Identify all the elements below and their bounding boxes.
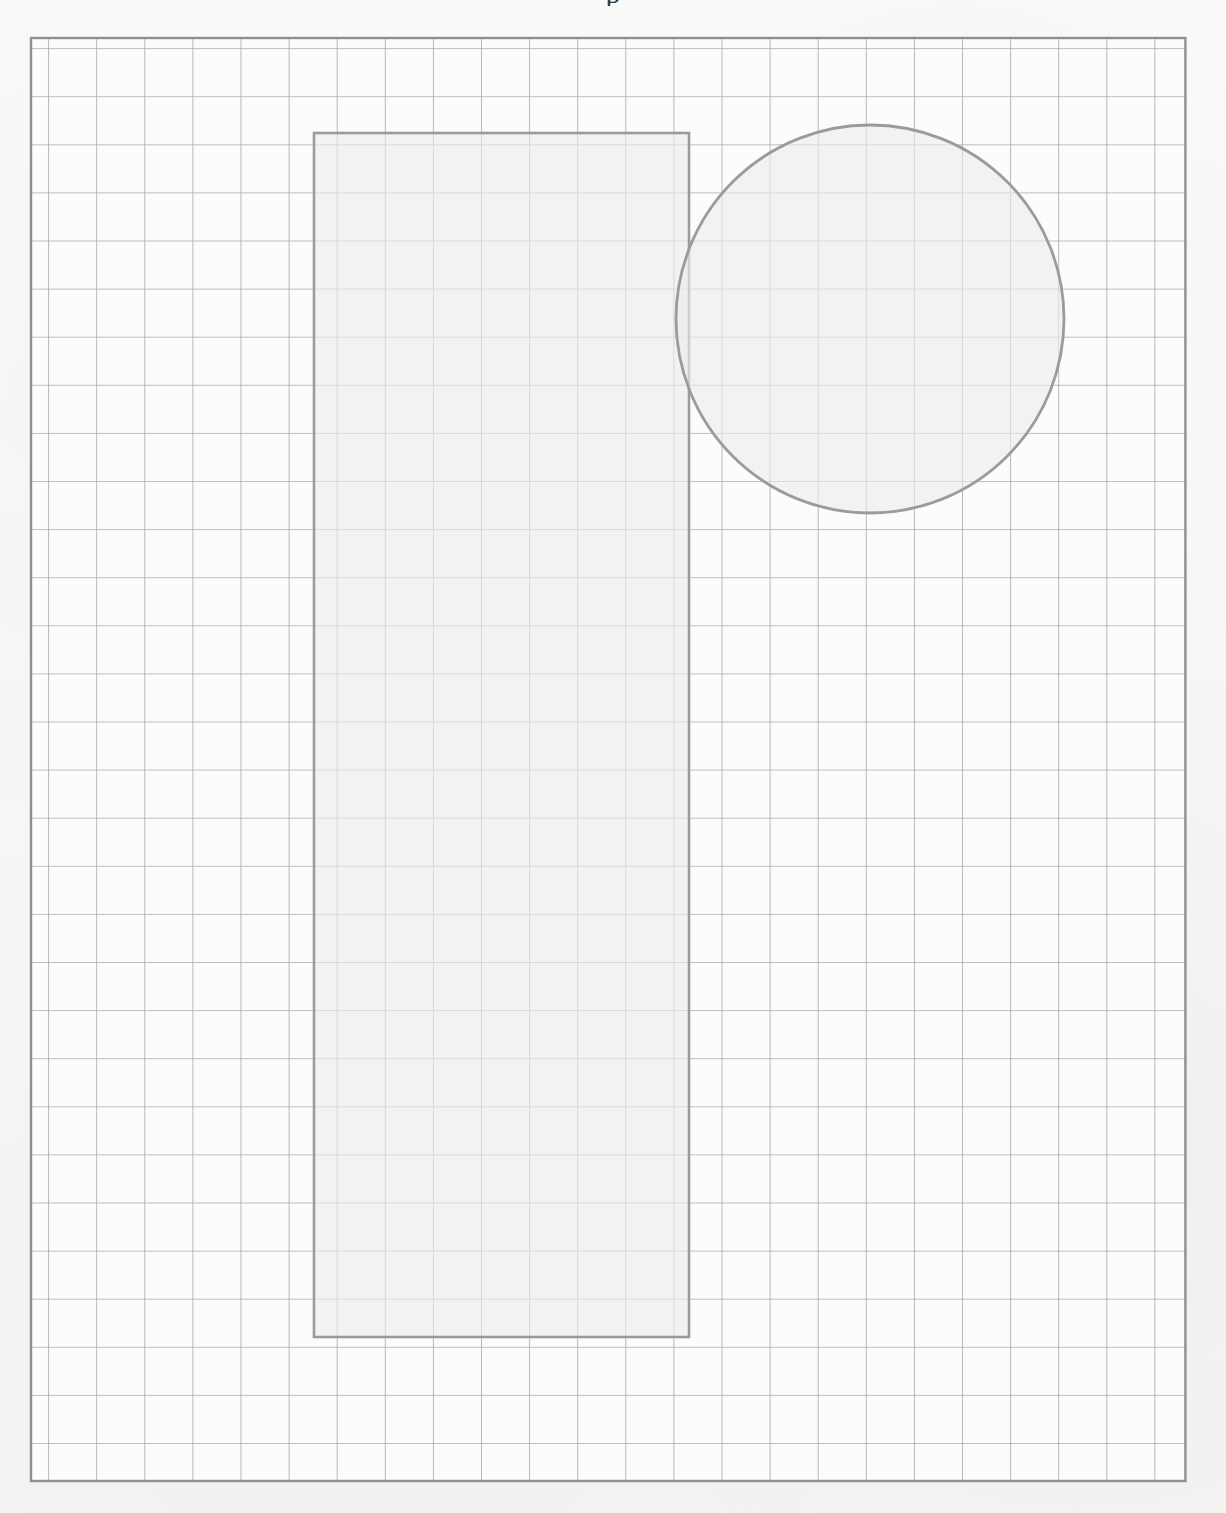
shape-circle[interactable] [676, 125, 1064, 513]
shapes-layer [0, 0, 1226, 1513]
worksheet-page: p [0, 0, 1226, 1513]
shape-rectangle[interactable] [314, 133, 689, 1337]
